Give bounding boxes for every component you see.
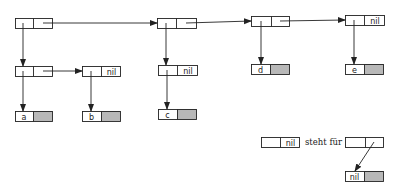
cell-cdr-label: nil — [183, 67, 193, 76]
cons-cell-n5 — [16, 67, 53, 77]
cons-cell-n7: nil — [159, 66, 198, 76]
linked-list-diagram: nilnilnildeabcnilnil steht für — [0, 0, 395, 191]
cell-cdr-label: nil — [286, 139, 296, 148]
list-cells: nilnilnildeabcnilnil — [16, 16, 385, 182]
pointer-arrows — [23, 20, 374, 171]
cell-car-label: a — [22, 113, 27, 122]
cons-cell-b: b — [83, 111, 121, 122]
cons-cell-leg1: nil — [262, 138, 300, 148]
cons-cell-leg3: nil — [346, 171, 384, 182]
cons-cell-n3 — [252, 17, 290, 27]
cell-car-label: d — [258, 66, 263, 75]
pointer-arrow-icon — [186, 21, 251, 23]
pointer-arrow-icon — [355, 142, 374, 171]
cons-cell-e: e — [346, 64, 384, 75]
cons-cell-c: c — [159, 109, 197, 120]
cell-car-label: c — [165, 111, 169, 120]
cons-cell-leg2 — [346, 138, 384, 148]
cons-cell-a: a — [16, 111, 53, 122]
cell-car-label: e — [352, 66, 357, 75]
cell-cdr-label: nil — [107, 68, 117, 77]
cell-car-label: b — [89, 113, 94, 122]
cons-cell-n1 — [16, 19, 53, 29]
legend-label: steht für — [305, 137, 343, 147]
cons-cell-n4: nil — [346, 16, 385, 26]
cell-cdr-label: nil — [370, 17, 380, 26]
cell-car-label: nil — [350, 173, 360, 182]
cons-cell-d: d — [252, 64, 290, 75]
cons-cell-n2 — [158, 19, 197, 29]
cons-cell-n6: nil — [83, 67, 121, 77]
diagram-canvas: nilnilnildeabcnilnil steht für — [0, 0, 395, 191]
